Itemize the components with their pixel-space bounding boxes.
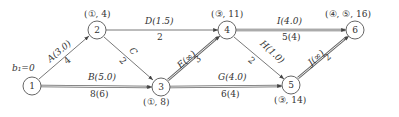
node-1: 1 <box>23 77 41 95</box>
node-2-id: 2 <box>94 25 100 35</box>
node-5-mark: (③, 14) <box>274 95 306 105</box>
start-label: b₁=0 <box>12 63 35 73</box>
edge-g: G(4.0) 6(4) <box>170 72 282 99</box>
edge-i: I(4.0) 5(4) <box>236 16 346 42</box>
node-6: 6 <box>346 21 364 39</box>
node-6-id: 6 <box>352 25 358 35</box>
edge-i-weight: 5(4) <box>282 32 300 42</box>
edge-b-label: B(5.0) <box>87 72 116 82</box>
edge-e: E(∞) 3 <box>168 36 220 80</box>
edge-d-label: D(1.5) <box>144 16 174 26</box>
node-4-id: 4 <box>224 25 230 35</box>
node-4-mark: (③, 11) <box>211 9 243 19</box>
node-6-mark: (④, ⑤, 16) <box>325 9 371 19</box>
edge-d-weight: 2 <box>157 32 163 42</box>
node-3-mark: (①, 8) <box>143 97 169 107</box>
node-2: 2 <box>88 21 106 39</box>
edge-c-label: C <box>127 45 139 57</box>
node-3: 3 <box>152 78 170 96</box>
node-2-mark: (①, 4) <box>84 9 110 19</box>
edge-i-label: I(4.0) <box>276 16 302 26</box>
edge-h-weight: 2 <box>246 55 257 66</box>
node-4: 4 <box>218 21 236 39</box>
edge-e-weight: 3 <box>192 53 203 64</box>
edge-b: B(5.0) 8(6) <box>41 72 152 99</box>
edge-g-weight: 6(4) <box>221 89 239 99</box>
edge-g-label: G(4.0) <box>218 72 247 82</box>
node-5: 5 <box>282 76 300 94</box>
edge-j: J(∞) 2 <box>298 36 349 78</box>
network-diagram: A(3.0) 4 B(5.0) 8(6) C 2 D(1.5) 2 E(∞) 3… <box>0 0 399 117</box>
edge-b-weight: 8(6) <box>90 89 108 99</box>
node-3-id: 3 <box>158 82 164 92</box>
edge-c-weight: 2 <box>117 55 128 66</box>
edge-a: A(3.0) 4 <box>39 36 89 79</box>
node-1-id: 1 <box>29 81 35 91</box>
edge-j-weight: 2 <box>322 52 333 63</box>
edge-a-weight: 4 <box>62 55 73 67</box>
edge-d: D(1.5) 2 <box>106 16 218 42</box>
node-5-id: 5 <box>288 80 294 90</box>
